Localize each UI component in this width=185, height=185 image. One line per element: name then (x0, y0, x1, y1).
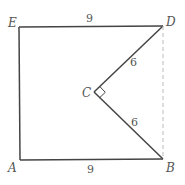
label-C: C (82, 86, 91, 100)
geometry-diagram: E D C A B 9 9 6 6 (0, 0, 185, 185)
segment-CB (94, 92, 163, 159)
segment-AB (20, 159, 163, 160)
segment-CD (94, 26, 163, 92)
segment-ED (19, 26, 163, 27)
label-A: A (7, 161, 17, 175)
label-E: E (7, 16, 17, 30)
segment-EA (19, 27, 20, 160)
length-CB: 6 (131, 116, 138, 129)
label-B: B (165, 161, 175, 175)
length-CD: 6 (130, 56, 137, 69)
right-angle-marker-icon (100, 87, 106, 98)
length-ED: 9 (86, 12, 93, 25)
diagram-svg: E D C A B 9 9 6 6 (0, 0, 185, 185)
length-AB: 9 (87, 163, 94, 176)
label-D: D (165, 15, 176, 29)
